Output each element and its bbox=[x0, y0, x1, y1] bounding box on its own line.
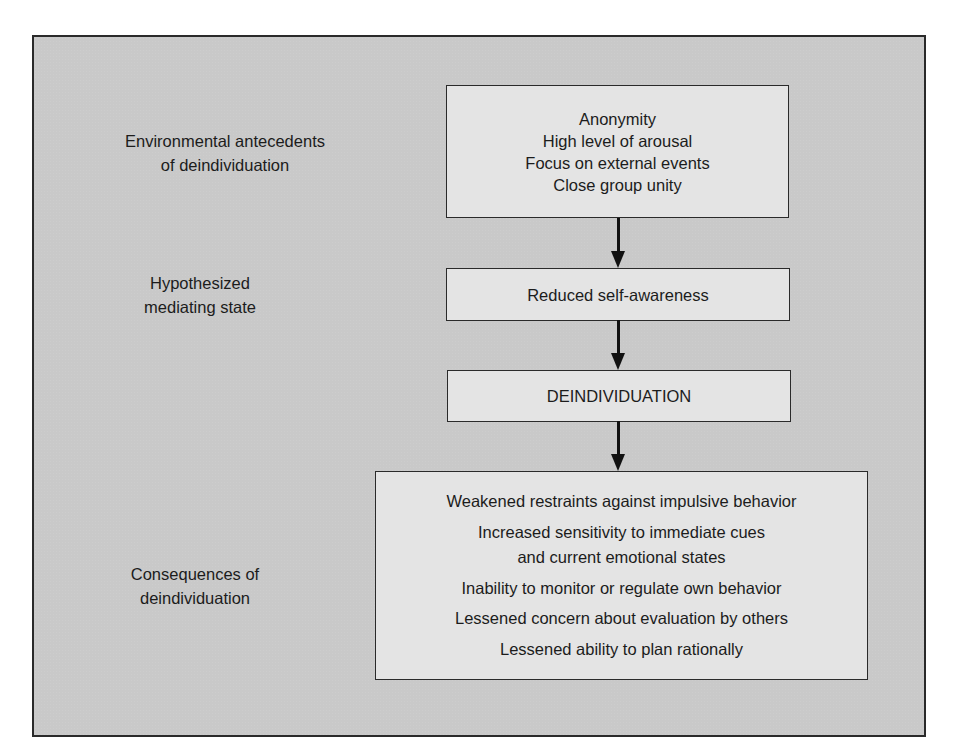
box-line: Focus on external events bbox=[525, 152, 709, 174]
arrow-down-icon bbox=[610, 320, 626, 370]
box-line: High level of arousal bbox=[543, 130, 693, 152]
label-line: deindividuation bbox=[120, 586, 270, 610]
label-mediating-state: Hypothesized mediating state bbox=[120, 271, 280, 319]
box-line: Weakened restraints against impulsive be… bbox=[446, 489, 796, 515]
box-antecedents: Anonymity High level of arousal Focus on… bbox=[446, 85, 789, 218]
box-consequences: Weakened restraints against impulsive be… bbox=[375, 471, 868, 680]
box-line: and current emotional states bbox=[517, 545, 725, 571]
box-line: DEINDIVIDUATION bbox=[547, 385, 692, 407]
box-line: Reduced self-awareness bbox=[527, 284, 709, 306]
box-reduced-self-awareness: Reduced self-awareness bbox=[446, 268, 790, 321]
box-line: Close group unity bbox=[553, 174, 681, 196]
label-line: mediating state bbox=[120, 295, 280, 319]
box-line: Inability to monitor or regulate own beh… bbox=[461, 576, 781, 602]
box-line: Anonymity bbox=[579, 108, 656, 130]
arrow-down-icon bbox=[610, 421, 626, 471]
arrow-down-icon bbox=[610, 218, 626, 268]
box-line: Lessened ability to plan rationally bbox=[500, 637, 743, 663]
label-line: Consequences of bbox=[120, 562, 270, 586]
label-consequences: Consequences of deindividuation bbox=[120, 562, 270, 610]
label-line: Environmental antecedents bbox=[80, 129, 370, 153]
box-deindividuation: DEINDIVIDUATION bbox=[447, 370, 791, 422]
label-line: Hypothesized bbox=[120, 271, 280, 295]
label-environmental-antecedents: Environmental antecedents of deindividua… bbox=[80, 129, 370, 177]
box-line: Lessened concern about evaluation by oth… bbox=[455, 606, 788, 632]
box-line: Increased sensitivity to immediate cues bbox=[478, 520, 765, 546]
label-line: of deindividuation bbox=[80, 153, 370, 177]
